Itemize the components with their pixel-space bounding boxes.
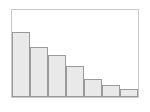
bar-2 bbox=[30, 47, 48, 97]
histogram-figure bbox=[0, 0, 150, 112]
bar-5 bbox=[84, 79, 102, 97]
bar-series bbox=[12, 10, 138, 97]
bar-4 bbox=[66, 66, 84, 97]
bar-1 bbox=[12, 32, 30, 97]
bar-3 bbox=[48, 55, 66, 97]
bar-6 bbox=[102, 85, 120, 97]
bar-7 bbox=[120, 89, 138, 97]
plot-area bbox=[11, 9, 139, 98]
